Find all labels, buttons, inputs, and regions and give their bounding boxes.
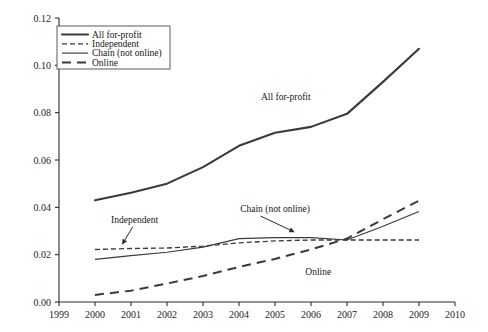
series-line-independent [95, 240, 419, 249]
x-axis-tick-label: 2003 [193, 309, 213, 320]
x-axis-tick-label: 2005 [265, 309, 285, 320]
x-axis-tick-label: 2004 [229, 309, 249, 320]
chart-annotations-group: All for-profitIndependentChain (not onli… [111, 92, 331, 278]
annotation-label-online: Online [305, 267, 331, 277]
line-chart: 0.000.020.040.060.080.100.12199920002001… [0, 0, 488, 332]
y-axis-tick-label: 0.10 [34, 60, 52, 71]
y-axis-tick-label: 0.08 [34, 107, 52, 118]
legend-item-online-label: Online [92, 58, 118, 68]
annotation-arrow [125, 227, 133, 240]
chart-legend: All for-profitIndependentChain (not onli… [57, 26, 170, 69]
y-axis-tick-label: 0.02 [34, 249, 52, 260]
x-axis-tick-label: 2001 [121, 309, 141, 320]
x-axis-tick-label: 2000 [85, 309, 105, 320]
x-axis-tick-label: 2007 [337, 309, 357, 320]
x-axis-tick-label: 2008 [373, 309, 393, 320]
x-axis-tick-label: 2010 [445, 309, 465, 320]
annotation-arrow [261, 216, 290, 230]
x-axis-tick-label: 1999 [49, 309, 69, 320]
series-line-all-for-profit [95, 49, 419, 200]
y-axis-tick-label: 0.00 [34, 297, 52, 308]
annotation-label-independent: Independent [111, 215, 158, 225]
chart-container: 0.000.020.040.060.080.100.12199920002001… [0, 0, 488, 332]
annotation-label-all-for-profit: All for-profit [261, 92, 311, 102]
y-axis-tick-label: 0.04 [34, 202, 52, 213]
x-axis-tick-label: 2006 [301, 309, 321, 320]
annotation-label-chain-not-online: Chain (not online) [240, 204, 310, 215]
y-axis-tick-label: 0.12 [34, 13, 52, 24]
chart-series-group [95, 49, 419, 295]
x-axis-tick-label: 2009 [409, 309, 429, 320]
x-axis-tick-label: 2002 [157, 309, 177, 320]
y-axis-tick-label: 0.06 [34, 155, 52, 166]
